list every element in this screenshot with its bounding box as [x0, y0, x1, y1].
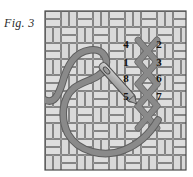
stitch-number: 2 [156, 38, 162, 50]
stitch-number: 5 [123, 90, 129, 102]
figure-container: Fig. 3 [0, 0, 193, 177]
stitch-diagram: 4 1 8 5 2 3 6 7 [0, 0, 193, 177]
stitch-number: 3 [156, 56, 162, 68]
stitch-number: 1 [123, 56, 129, 68]
stitch-number: 6 [156, 72, 162, 84]
stitch-number: 4 [123, 38, 129, 50]
stitch-number: 8 [123, 72, 129, 84]
canvas-weave [45, 11, 186, 170]
stitch-number: 7 [156, 90, 162, 102]
